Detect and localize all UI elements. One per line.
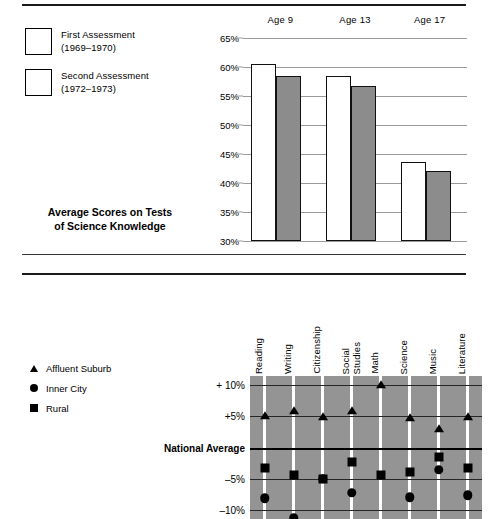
legend-label-first-assessment: First Assessment (1969–1970)	[61, 28, 135, 54]
tick-35	[237, 212, 243, 213]
tick-30	[237, 241, 243, 242]
bar-age-17-series1	[426, 171, 451, 241]
tick-65	[237, 38, 243, 39]
gridline-10	[250, 385, 482, 386]
subject-header-social-studies: Social Studies	[341, 342, 362, 374]
legend-label-affluent-suburb: Affluent Suburb	[46, 363, 111, 374]
data-point-rural-literature	[463, 464, 472, 473]
data-point-inner-city-science	[405, 492, 415, 502]
data-point-rural-math	[376, 470, 385, 479]
data-point-affluent-suburb-citizenship	[318, 412, 328, 420]
gridline-30	[243, 241, 467, 242]
gridline-65	[243, 38, 467, 39]
data-point-rural-reading	[260, 464, 269, 473]
subject-header-science: Science	[399, 340, 410, 375]
y-tick-label-10: + 10%	[216, 380, 245, 391]
subject-headers: ReadingWritingCitizenshipSocial StudiesM…	[250, 292, 482, 374]
bar-age-9-series0	[251, 64, 276, 241]
data-point-affluent-suburb-music	[434, 424, 444, 432]
caption-line2: of Science Knowledge	[25, 219, 195, 233]
gridline-60	[243, 67, 467, 68]
bottom-chart-y-axis-labels: + 10%+5%National Average–5%–10%	[75, 376, 245, 519]
gridline--5	[250, 479, 482, 480]
age-header-1: Age 13	[318, 14, 393, 36]
y-tick-label-5: +5%	[225, 411, 245, 422]
legend-item-first-assessment: First Assessment (1969–1970)	[25, 28, 190, 55]
tick-45	[237, 154, 243, 155]
data-point-affluent-suburb-literature	[463, 412, 473, 420]
legend-label-line1: First Assessment	[61, 29, 135, 42]
tick-55	[237, 96, 243, 97]
data-point-inner-city-reading	[260, 494, 270, 504]
top-chart-legend: First Assessment (1969–1970) Second Asse…	[25, 28, 190, 110]
data-point-affluent-suburb-social-studies	[347, 406, 357, 414]
subject-header-citizenship: Citizenship	[312, 326, 323, 374]
age-header-0: Age 9	[243, 14, 318, 36]
triangle-marker-icon	[28, 365, 40, 372]
top-chart-plot-area	[243, 38, 467, 241]
legend-label-line1: Second Assessment	[61, 70, 149, 83]
legend-item-affluent-suburb: Affluent Suburb	[28, 358, 178, 378]
divider-middle-upper	[22, 254, 466, 255]
gridline-5	[250, 416, 482, 417]
data-point-inner-city-music	[434, 465, 444, 475]
data-point-rural-science	[405, 468, 414, 477]
data-point-inner-city-writing	[289, 514, 299, 519]
top-chart-caption: Average Scores on Tests of Science Knowl…	[25, 205, 195, 233]
gridline-national-average	[250, 448, 482, 450]
data-point-affluent-suburb-writing	[289, 406, 299, 414]
bar-age-13-series1	[351, 86, 376, 241]
tick-60	[237, 67, 243, 68]
legend-label-second-assessment: Second Assessment (1972–1973)	[61, 69, 149, 95]
subject-header-literature: Literature	[457, 333, 468, 374]
data-point-rural-citizenship	[318, 474, 327, 483]
figure-page: First Assessment (1969–1970) Second Asse…	[0, 0, 488, 519]
bar-age-17-series0	[401, 162, 426, 241]
circle-marker-icon	[28, 384, 40, 392]
data-point-affluent-suburb-reading	[260, 412, 270, 420]
age-group-headers: Age 9Age 13Age 17	[243, 14, 467, 36]
y-tick-label-national-average: National Average	[164, 442, 245, 453]
y-tick-label--5: –5%	[225, 473, 245, 484]
square-marker-icon	[28, 404, 40, 412]
gridline--10	[250, 510, 482, 511]
subject-header-writing: Writing	[283, 344, 294, 374]
bar-age-9-series1	[276, 76, 301, 241]
divider-top	[22, 4, 466, 6]
subject-header-math: Math	[370, 352, 381, 374]
legend-label-line2: (1972–1973)	[61, 83, 149, 96]
data-point-affluent-suburb-science	[405, 413, 415, 421]
data-point-affluent-suburb-math	[376, 381, 386, 389]
caption-line1: Average Scores on Tests	[25, 205, 195, 219]
legend-label-line2: (1969–1970)	[61, 42, 135, 55]
science-knowledge-bar-chart: Age 9Age 13Age 17 65%60%55%50%45%40%35%3…	[205, 14, 467, 246]
tick-40	[237, 183, 243, 184]
y-tick-label--10: –10%	[219, 504, 245, 515]
data-point-inner-city-social-studies	[347, 488, 357, 498]
bar-age-13-series0	[326, 76, 351, 241]
age-header-2: Age 17	[392, 14, 467, 36]
tick-50	[237, 125, 243, 126]
legend-item-second-assessment: Second Assessment (1972–1973)	[25, 69, 190, 96]
divider-middle-lower	[22, 273, 466, 275]
data-point-rural-social-studies	[347, 458, 356, 467]
bottom-chart-plot-area	[250, 376, 482, 519]
legend-swatch-first-assessment	[25, 28, 52, 55]
data-point-rural-writing	[289, 470, 298, 479]
data-point-rural-music	[434, 452, 443, 461]
subject-header-reading: Reading	[254, 338, 265, 374]
data-point-inner-city-literature	[463, 491, 473, 501]
legend-swatch-second-assessment	[25, 69, 52, 96]
subject-header-music: Music	[428, 349, 439, 374]
subject-deviation-scatter-chart: ReadingWritingCitizenshipSocial StudiesM…	[250, 292, 482, 519]
legend-label-rural: Rural	[46, 403, 69, 414]
top-chart-y-axis-labels: 65%60%55%50%45%40%35%30%	[205, 38, 239, 241]
